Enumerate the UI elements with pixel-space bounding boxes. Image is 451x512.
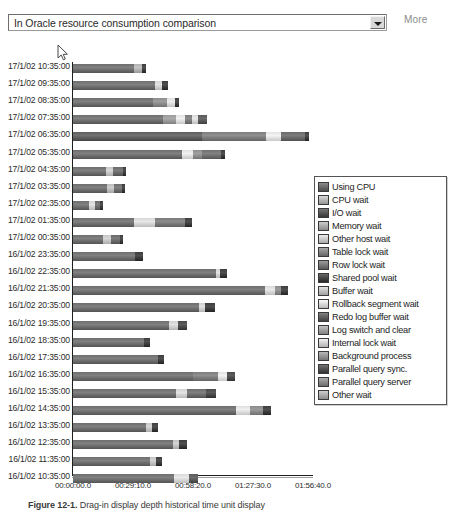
legend-item[interactable]: Other host wait: [318, 232, 444, 245]
legend-item[interactable]: CPU wait: [318, 193, 444, 206]
legend-item-label: Internal lock wait: [332, 338, 396, 348]
bar-segment: [73, 321, 169, 330]
legend-item[interactable]: Other wait: [318, 388, 444, 401]
bar-segment: [176, 389, 187, 398]
bar-segment: [169, 321, 178, 330]
legend-item[interactable]: Parallel query sync.: [318, 362, 444, 375]
y-axis-label: 17/1/02 04:35:00: [4, 164, 70, 174]
bar[interactable]: [73, 423, 158, 432]
y-axis-label: 17/1/02 07:35:00: [4, 112, 70, 122]
figure-description: Drag-in display depth historical time un…: [80, 500, 265, 510]
chart-legend: Using CPUCPU waitI/O waitMemory waitOthe…: [314, 176, 447, 405]
y-axis-label: 17/1/02 08:35:00: [4, 95, 70, 105]
bar[interactable]: [73, 98, 179, 107]
legend-item[interactable]: Parallel query server: [318, 375, 444, 388]
legend-item[interactable]: Shared pool wait: [318, 271, 444, 284]
bar[interactable]: [73, 81, 168, 90]
bar-segment: [163, 115, 176, 124]
legend-color-swatch: [318, 390, 329, 400]
bar[interactable]: [73, 235, 123, 244]
legend-color-swatch: [318, 312, 329, 322]
bar[interactable]: [73, 201, 103, 210]
legend-item[interactable]: Table lock wait: [318, 245, 444, 258]
legend-color-swatch: [318, 286, 329, 296]
bar[interactable]: [73, 286, 288, 295]
legend-color-swatch: [318, 273, 329, 283]
bar-segment: [73, 372, 193, 381]
legend-item[interactable]: Rollback segment wait: [318, 297, 444, 310]
figure-caption: Figure 12-1. Drag-in display depth histo…: [28, 500, 265, 510]
bar[interactable]: [73, 372, 235, 381]
y-axis-label: 17/1/02 03:35:00: [4, 181, 70, 191]
bar[interactable]: [73, 252, 143, 261]
bar[interactable]: [73, 303, 215, 312]
legend-item-label: Parallel query sync.: [332, 364, 407, 374]
bar-segment: [73, 303, 199, 312]
bar-segment: [73, 167, 106, 176]
bar-segment: [73, 440, 173, 449]
legend-item-label: Table lock wait: [332, 247, 388, 257]
bar-segment: [206, 389, 216, 398]
legend-item-label: Using CPU: [332, 182, 375, 192]
bar[interactable]: [73, 355, 164, 364]
bar-segment: [218, 372, 227, 381]
bar-segment: [220, 269, 227, 278]
legend-item[interactable]: Background process: [318, 349, 444, 362]
legend-item[interactable]: Memory wait: [318, 219, 444, 232]
legend-item[interactable]: I/O wait: [318, 206, 444, 219]
bar[interactable]: [73, 406, 271, 415]
legend-item-label: Shared pool wait: [332, 273, 396, 283]
legend-item[interactable]: Using CPU: [318, 180, 444, 193]
bar-segment: [162, 81, 168, 90]
bar-segment: [120, 235, 123, 244]
bar-segment: [305, 132, 309, 141]
bar-segment: [73, 252, 135, 261]
bar-segment: [153, 98, 167, 107]
bar[interactable]: [73, 389, 216, 398]
bar[interactable]: [73, 184, 125, 193]
bar[interactable]: [73, 457, 162, 466]
bar[interactable]: [73, 167, 126, 176]
bar-segment: [182, 150, 193, 159]
legend-item[interactable]: Log switch and clear: [318, 323, 444, 336]
bar-segment: [73, 355, 158, 364]
legend-color-swatch: [318, 351, 329, 361]
bar[interactable]: [73, 132, 309, 141]
bar-segment: [73, 423, 146, 432]
bar[interactable]: [73, 64, 146, 73]
legend-item[interactable]: Row lock wait: [318, 258, 444, 271]
legend-color-swatch: [318, 299, 329, 309]
bar[interactable]: [73, 218, 192, 227]
bar-segment: [122, 184, 125, 193]
legend-item[interactable]: Buffer wait: [318, 284, 444, 297]
bar-segment: [73, 338, 144, 347]
bar-segment: [155, 218, 185, 227]
bar-segment: [73, 201, 89, 210]
bar[interactable]: [73, 321, 187, 330]
bar-segment: [73, 389, 176, 398]
legend-color-swatch: [318, 325, 329, 335]
bar-segment: [227, 372, 235, 381]
bar[interactable]: [73, 440, 187, 449]
bar-segment: [103, 235, 111, 244]
bar-segment: [144, 338, 150, 347]
legend-item[interactable]: Internal lock wait: [318, 336, 444, 349]
y-axis-label: 16/1/02 18:35:00: [4, 335, 70, 345]
bar-segment: [185, 218, 193, 227]
y-axis-label: 16/1/02 20:35:00: [4, 300, 70, 310]
bar-segment: [265, 286, 275, 295]
bar-segment: [198, 115, 207, 124]
bar-segment: [142, 64, 146, 73]
bar-segment: [100, 201, 103, 210]
bar-segment: [178, 321, 188, 330]
bar[interactable]: [73, 115, 207, 124]
bar[interactable]: [73, 338, 150, 347]
bar-segment: [73, 81, 155, 90]
bar-segment: [152, 423, 158, 432]
bar[interactable]: [73, 269, 227, 278]
bar-segment: [134, 218, 155, 227]
bar[interactable]: [73, 150, 225, 159]
bar-segment: [193, 150, 202, 159]
legend-item[interactable]: Redo log buffer wait: [318, 310, 444, 323]
bar-segment: [175, 98, 179, 107]
